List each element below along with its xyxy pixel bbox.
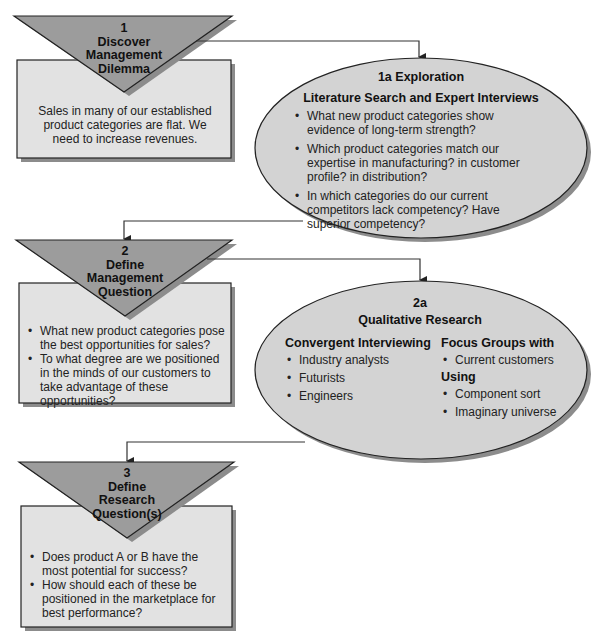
step1-title-line2: Management bbox=[64, 49, 184, 63]
convergent-interviewing-list: Industry analysts Futurists Engineers bbox=[285, 353, 445, 403]
using-item: Component sort bbox=[441, 387, 581, 401]
using-heading: Using bbox=[441, 370, 581, 384]
step2a-title: Qualitative Research bbox=[320, 313, 520, 327]
step1a-bullet: What new product categories show evidenc… bbox=[293, 109, 543, 137]
step1-title-line3: Dilemma bbox=[64, 63, 184, 77]
step2-title: 2 Define Management Question bbox=[65, 245, 185, 299]
convergent-item: Futurists bbox=[285, 371, 445, 385]
step3-title-line2: Research bbox=[67, 494, 187, 508]
step1-body: Sales in many of our established product… bbox=[30, 104, 220, 146]
using-list: Component sort Imaginary universe bbox=[441, 387, 581, 419]
step3-bullet: How should each of these be positioned i… bbox=[28, 578, 226, 620]
connector-2-to-2a bbox=[207, 259, 420, 280]
step2-bullet: To what degree are we positioned in the … bbox=[26, 352, 226, 408]
focus-groups-list: Current customers bbox=[441, 353, 581, 367]
step2a-left-column: Convergent Interviewing Industry analyst… bbox=[285, 336, 445, 407]
focus-groups-heading: Focus Groups with bbox=[441, 336, 581, 350]
using-item: Imaginary universe bbox=[441, 405, 581, 419]
convergent-item: Engineers bbox=[285, 389, 445, 403]
step3-title: 3 Define Research Question(s) bbox=[67, 467, 187, 521]
step1-title-line1: Discover bbox=[64, 36, 184, 50]
connector-2a-to-3 bbox=[127, 442, 305, 461]
step2-title-line2: Management bbox=[65, 272, 185, 286]
convergent-item: Industry analysts bbox=[285, 353, 445, 367]
connector-1a-to-2 bbox=[124, 221, 303, 239]
step3-title-line1: Define bbox=[67, 481, 187, 495]
step3-number: 3 bbox=[67, 467, 187, 481]
step2-title-line1: Define bbox=[65, 259, 185, 273]
step3-bullets: Does product A or B have the most potent… bbox=[28, 550, 226, 620]
step1-number: 1 bbox=[64, 22, 184, 36]
step1a-title: 1a Exploration bbox=[321, 70, 521, 84]
step1a-subtitle: Literature Search and Expert Interviews bbox=[291, 91, 551, 105]
step2a-number: 2a bbox=[370, 296, 470, 310]
step1a-bullet: In which categories do our current compe… bbox=[293, 189, 543, 231]
step1-title: 1 Discover Management Dilemma bbox=[64, 22, 184, 76]
step2-bullets: What new product categories pose the bes… bbox=[26, 324, 226, 408]
step2-bullet: What new product categories pose the bes… bbox=[26, 324, 226, 352]
convergent-interviewing-heading: Convergent Interviewing bbox=[285, 336, 445, 350]
focus-groups-item: Current customers bbox=[441, 353, 581, 367]
step2-title-line3: Question bbox=[65, 286, 185, 300]
step1a-bullet: Which product categories match our exper… bbox=[293, 142, 543, 184]
step2a-right-column: Focus Groups with Current customers Usin… bbox=[441, 336, 581, 423]
step1a-bullets: What new product categories show evidenc… bbox=[293, 109, 543, 236]
step3-title-line3: Question(s) bbox=[67, 508, 187, 522]
step3-bullet: Does product A or B have the most potent… bbox=[28, 550, 226, 578]
connector-1-to-1a bbox=[196, 41, 419, 57]
step2-number: 2 bbox=[65, 245, 185, 259]
